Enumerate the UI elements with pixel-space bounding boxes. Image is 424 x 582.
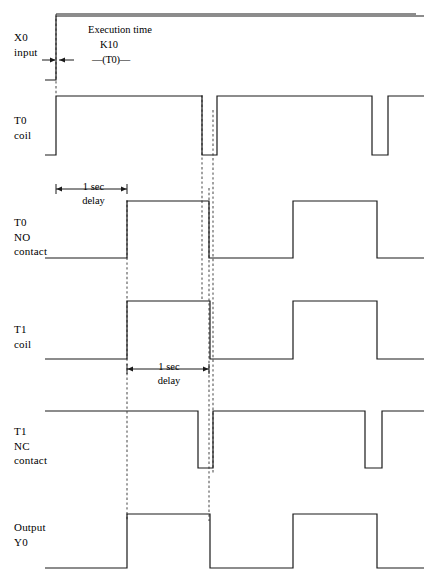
row-label-x0-input: X0input	[14, 30, 38, 59]
delay-1-label: delay	[58, 194, 129, 208]
label-line: T0	[14, 113, 31, 128]
timer-constant-text: K10	[88, 37, 152, 52]
delay-1-duration: 1 sec	[58, 180, 129, 194]
timer-coil-symbol: —(T0)—	[88, 52, 152, 67]
coil-symbol-suffix: )—	[116, 54, 129, 65]
timing-diagram: X0input T0coil T0NOcontact T1coil T1NCco…	[0, 0, 424, 582]
label-line: coil	[14, 128, 31, 143]
label-line: Y0	[14, 535, 46, 550]
label-line: Output	[14, 520, 46, 535]
label-line: T0	[14, 215, 47, 230]
delay-2-label: delay	[128, 374, 210, 388]
label-line: T1	[14, 424, 47, 439]
execution-time-annotation: Execution time K10 —(T0)—	[88, 22, 152, 67]
label-line: X0	[14, 30, 38, 45]
coil-symbol-name: T0	[105, 54, 116, 65]
dashed-guide-lines	[56, 14, 213, 521]
label-line: T1	[14, 322, 31, 337]
row-label-t1-nc-contact: T1NCcontact	[14, 424, 47, 468]
row-label-t0-coil: T0coil	[14, 113, 31, 142]
execution-time-text: Execution time	[88, 22, 152, 37]
delay-2-duration: 1 sec	[128, 360, 210, 374]
label-line: NO	[14, 230, 47, 245]
signal-waveforms	[45, 16, 424, 568]
row-label-output-y0: OutputY0	[14, 520, 46, 549]
delay-annotation-1: 1 sec delay	[58, 180, 129, 208]
label-line: coil	[14, 337, 31, 352]
measure-arrows	[42, 57, 209, 374]
coil-symbol-prefix: —(	[92, 54, 105, 65]
delay-annotation-2: 1 sec delay	[128, 360, 210, 388]
waveform-canvas	[0, 0, 424, 582]
label-line: input	[14, 45, 38, 60]
label-line: NC	[14, 439, 47, 454]
row-label-t1-coil: T1coil	[14, 322, 31, 351]
label-line: contact	[14, 453, 47, 468]
row-label-t0-no-contact: T0NOcontact	[14, 215, 47, 259]
label-line: contact	[14, 244, 47, 259]
